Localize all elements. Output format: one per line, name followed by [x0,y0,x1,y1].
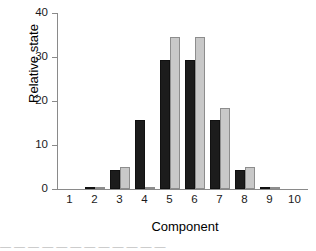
y-tick-label: 20 [8,95,48,107]
artifact-text: — — — — — — — — — — — — [0,243,316,251]
bar-light-5 [170,37,180,189]
bar-dark-7 [210,120,220,189]
y-axis-title: Relative state [26,0,41,144]
figure: Relative state Component 010203040 12345… [0,0,316,251]
x-axis-line [57,189,308,190]
bar-dark-5 [160,60,170,189]
bar-light-6 [195,37,205,189]
page-artifact-strip: — — — — — — — — — — — — [0,243,316,251]
y-tick-label: 30 [8,51,48,63]
x-tick-label: 9 [258,194,282,206]
x-tick-label: 5 [158,194,182,206]
bar-dark-6 [185,60,195,189]
x-tick-label: 6 [183,194,207,206]
bar-dark-8 [235,170,245,189]
bar-light-2 [95,187,105,189]
bar-light-8 [245,167,255,189]
x-tick-label: 2 [83,194,107,206]
x-tick-label: 7 [208,194,232,206]
bar-dark-9 [260,187,270,189]
y-tick-label: 40 [8,7,48,19]
x-tick-label: 10 [283,194,307,206]
x-tick-label: 4 [133,194,157,206]
bar-light-7 [220,108,230,189]
bar-dark-2 [85,187,95,189]
bar-dark-4 [135,120,145,189]
plot-area [57,13,307,189]
bar-dark-3 [110,170,120,189]
x-axis-title: Component [55,219,315,234]
x-tick-label: 1 [58,194,82,206]
y-tick-label: 0 [8,183,48,195]
y-tick-mark [52,189,57,190]
bar-light-9 [270,187,280,189]
x-tick-label: 8 [233,194,257,206]
y-tick-label: 10 [8,139,48,151]
bar-light-4 [145,187,155,189]
x-tick-label: 3 [108,194,132,206]
bar-light-3 [120,167,130,189]
